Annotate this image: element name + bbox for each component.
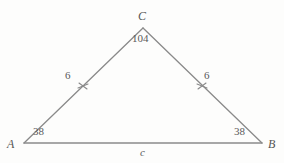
angle-measure-at-a: 38 [33, 126, 44, 137]
triangle-figure: A B C 38 38 104 6 6 c [0, 0, 284, 163]
angle-measure-at-c: 104 [132, 33, 149, 44]
side-length-right-leg: 6 [204, 70, 210, 81]
side-length-left-leg: 6 [65, 70, 71, 81]
vertex-label-b: B [268, 138, 275, 150]
side-length-base: c [140, 147, 145, 158]
vertex-label-a: A [7, 138, 14, 150]
angle-measure-at-b: 38 [234, 126, 245, 137]
triangle-drawing [0, 0, 284, 163]
left-leg-x-tick-icon [78, 83, 88, 89]
vertex-label-c: C [138, 10, 146, 22]
